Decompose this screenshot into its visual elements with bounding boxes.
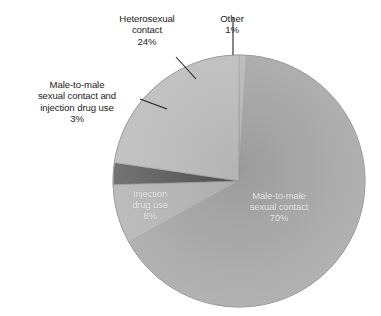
pie-paper-tint [113,55,365,307]
slice-label-injection-drug-use: Injection drug use 8% [112,188,188,222]
pie-chart-canvas [0,0,381,316]
slice-label-other: Other 1% [196,13,268,36]
slice-label-male-to-male-sexual-contact: Male-to-male sexual contact 70% [229,190,329,224]
pie-chart-figure: Heterosexual contact 24% Other 1% Male-t… [0,0,381,316]
slice-label-heterosexual-contact: Heterosexual contact 24% [95,13,199,47]
slice-label-male-to-male-and-injection-drug-use: Male-to-male sexual contact and injectio… [7,79,147,125]
